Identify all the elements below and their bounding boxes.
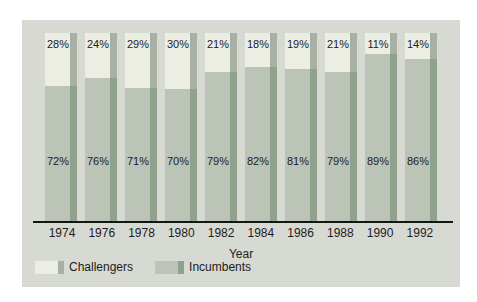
incumbents-segment-stripe: [350, 72, 357, 221]
incumbents-swatch: [155, 261, 184, 274]
bar-1974: 28%72%: [45, 33, 77, 221]
incumbent-value-label: 82%: [245, 155, 271, 167]
challengers-segment: 28%: [45, 33, 77, 86]
challenger-value-label: 28%: [45, 38, 71, 50]
incumbents-segment: [405, 59, 437, 221]
x-tick-1988: 1988: [323, 226, 357, 240]
challengers-segment-stripe: [430, 33, 437, 59]
chart-panel: 28%72%24%76%29%71%30%70%21%79%18%82%19%8…: [22, 20, 460, 287]
bar-1988: 21%79%: [325, 33, 357, 221]
bar-1990: 11%89%: [365, 33, 397, 221]
challengers-segment: 11%: [365, 33, 397, 54]
challengers-segment: 14%: [405, 33, 437, 59]
incumbents-segment-stripe: [110, 78, 117, 221]
challengers-segment-stripe: [310, 33, 317, 69]
challenger-value-label: 24%: [85, 38, 111, 50]
challenger-value-label: 30%: [165, 38, 191, 50]
challengers-segment: 30%: [165, 33, 197, 89]
legend-item-challengers: Challengers: [35, 260, 133, 274]
x-tick-1976: 1976: [85, 226, 119, 240]
challengers-segment-stripe: [110, 33, 117, 78]
challengers-segment-stripe: [350, 33, 357, 72]
challengers-segment-stripe: [190, 33, 197, 89]
incumbent-value-label: 81%: [285, 155, 311, 167]
incumbent-value-label: 89%: [365, 155, 391, 167]
incumbents-segment-stripe: [390, 54, 397, 221]
bar-1976: 24%76%: [85, 33, 117, 221]
challengers-swatch-stripe: [58, 261, 64, 274]
challengers-segment: 29%: [125, 33, 157, 88]
x-tick-1978: 1978: [125, 226, 159, 240]
x-tick-1980: 1980: [164, 226, 198, 240]
incumbents-segment-stripe: [430, 59, 437, 221]
incumbents-segment-stripe: [70, 86, 77, 221]
challengers-segment: 18%: [245, 33, 277, 67]
incumbents-swatch-stripe: [178, 261, 184, 274]
incumbent-value-label: 72%: [45, 155, 71, 167]
x-tick-1984: 1984: [244, 226, 278, 240]
x-tick-1982: 1982: [204, 226, 238, 240]
x-axis-title: Year: [229, 247, 253, 261]
incumbents-segment-stripe: [190, 89, 197, 221]
plot-area: 28%72%24%76%29%71%30%70%21%79%18%82%19%8…: [45, 33, 437, 221]
bar-1992: 14%86%: [405, 33, 437, 221]
bar-1984: 18%82%: [245, 33, 277, 221]
challengers-segment-stripe: [230, 33, 237, 72]
legend-label-incumbents: Incumbents: [189, 260, 251, 274]
x-tick-1990: 1990: [363, 226, 397, 240]
incumbents-segment: [245, 67, 277, 221]
challengers-segment-stripe: [390, 33, 397, 54]
challengers-segment-stripe: [270, 33, 277, 67]
incumbent-value-label: 71%: [125, 155, 151, 167]
challengers-swatch: [35, 261, 64, 274]
challengers-segment-stripe: [150, 33, 157, 88]
incumbent-value-label: 79%: [325, 155, 351, 167]
bar-1982: 21%79%: [205, 33, 237, 221]
x-tick-1974: 1974: [45, 226, 79, 240]
incumbents-segment: [85, 78, 117, 221]
challenger-value-label: 21%: [205, 38, 231, 50]
incumbent-value-label: 70%: [165, 155, 191, 167]
challenger-value-label: 14%: [405, 38, 431, 50]
incumbents-segment: [325, 72, 357, 221]
legend: Challengers Incumbents: [35, 260, 251, 274]
incumbents-segment: [205, 72, 237, 221]
challengers-segment: 24%: [85, 33, 117, 78]
challengers-segment: 21%: [205, 33, 237, 72]
challengers-segment-stripe: [70, 33, 77, 86]
incumbents-segment-stripe: [230, 72, 237, 221]
incumbents-segment: [365, 54, 397, 221]
x-tick-1992: 1992: [403, 226, 437, 240]
x-tick-1986: 1986: [284, 226, 318, 240]
incumbent-value-label: 76%: [85, 155, 111, 167]
incumbents-segment-stripe: [310, 69, 317, 221]
bar-1978: 29%71%: [125, 33, 157, 221]
legend-label-challengers: Challengers: [69, 260, 133, 274]
incumbents-segment-stripe: [150, 88, 157, 221]
legend-item-incumbents: Incumbents: [155, 260, 251, 274]
challenger-value-label: 19%: [285, 38, 311, 50]
challengers-segment: 19%: [285, 33, 317, 69]
challenger-value-label: 11%: [365, 38, 391, 50]
bar-1986: 19%81%: [285, 33, 317, 221]
x-axis-ticks: 1974197619781980198219841986198819901992: [45, 226, 437, 240]
challenger-value-label: 21%: [325, 38, 351, 50]
x-axis-line: [33, 221, 453, 223]
incumbents-segment-stripe: [270, 67, 277, 221]
incumbents-segment: [285, 69, 317, 221]
challenger-value-label: 18%: [245, 38, 271, 50]
challengers-segment: 21%: [325, 33, 357, 72]
challenger-value-label: 29%: [125, 38, 151, 50]
incumbent-value-label: 86%: [405, 155, 431, 167]
incumbent-value-label: 79%: [205, 155, 231, 167]
incumbents-segment: [45, 86, 77, 221]
bar-1980: 30%70%: [165, 33, 197, 221]
